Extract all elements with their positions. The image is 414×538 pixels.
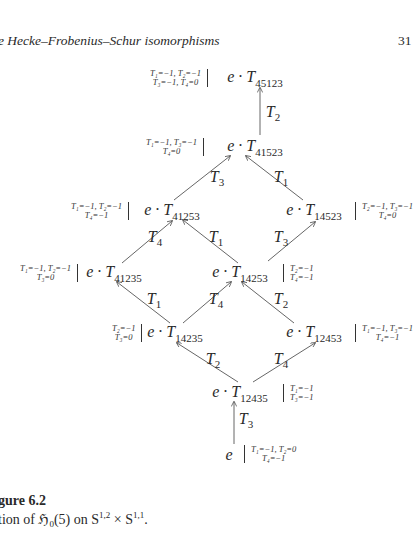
annotation-T14253: T₂=−1T₄=−1 (283, 264, 313, 282)
node-T41253: e · T41253 (144, 201, 200, 222)
edge-T14235-T14253 (183, 282, 231, 323)
edge-label-T3: T3 (274, 228, 288, 248)
edge-label-T4: T4 (209, 290, 223, 310)
node-T12453: e · T12453 (286, 323, 342, 344)
annotation-T41523: T₁=−1, T₃=−1T₄=0 (146, 138, 204, 156)
annotation-e: T₁=−1, T₂=0T₄=−1 (244, 445, 296, 463)
edge-label-T1: T1 (274, 168, 288, 188)
edge-label-T2: T2 (206, 350, 220, 370)
edge-label-T4: T4 (274, 350, 288, 370)
edge-label-T1: T1 (209, 228, 223, 248)
annotation-T12435: T₁=−1T₃=−1 (283, 384, 313, 402)
annotation-T14235: T₂=−1T₃=0 (112, 324, 142, 342)
node-T14253: e · T14253 (212, 263, 268, 284)
figure-caption-text: tion of ℌ0(5) on S1,2 × S1,1. (0, 510, 148, 529)
annotation-T45123: T₁=−1, T₂=−1T₃=−1, T₄=0 (150, 69, 208, 87)
edge-label-T1: T1 (147, 290, 161, 310)
edge-T14235-T41235 (117, 282, 170, 323)
node-T12435: e · T12435 (212, 383, 268, 404)
figure-caption-title: gure 6.2 (0, 493, 46, 509)
edge-label-T4: T4 (148, 228, 162, 248)
node-T41235: e · T41235 (86, 263, 142, 284)
annotation-T14523: T₂=−1, T₃=−1T₄=0 (355, 202, 413, 220)
node-e: e (225, 446, 232, 464)
annotation-T41253: T₁=−1, T₂=−1T₄=−1 (71, 202, 129, 220)
annotation-T12453: T₁=−1, T₃=−1T₄=−1 (355, 324, 413, 342)
edge-label-T3: T3 (210, 168, 224, 188)
edge-label-T2-top: T2 (266, 103, 280, 123)
node-T41523: e · T41523 (227, 137, 283, 158)
annotation-T41235: T₁=−1, T₂=−1T₃=0 (20, 264, 78, 282)
edge-label-T2: T2 (274, 290, 288, 310)
node-T45123: e · T45123 (227, 68, 283, 89)
edge-label-T3-bottom: T3 (239, 410, 253, 430)
node-T14235: e · T14235 (147, 323, 203, 344)
node-T14523: e · T14523 (286, 201, 342, 222)
